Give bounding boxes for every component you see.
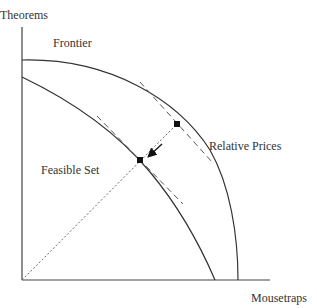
feasible-set-label: Feasible Set bbox=[41, 164, 99, 176]
ray-from-origin bbox=[22, 124, 177, 280]
feasible-point bbox=[137, 157, 143, 163]
frontier-label: Frontier bbox=[53, 37, 92, 49]
y-axis-label: Theorems bbox=[0, 9, 48, 21]
x-axis-label: Mousetraps bbox=[251, 292, 307, 304]
frontier-point bbox=[174, 121, 180, 127]
relative-prices-label: Relative Prices bbox=[209, 140, 281, 152]
ppf-diagram bbox=[0, 0, 317, 308]
feasible-set-curve bbox=[22, 77, 215, 280]
